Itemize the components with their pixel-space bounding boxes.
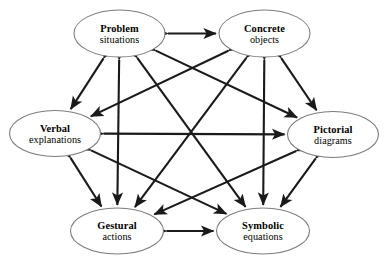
node-ellipse-symbolic[interactable] — [217, 208, 310, 254]
edge-verbal-pictorial — [104, 134, 285, 135]
diagram-canvas: ProblemsituationsConcreteobjectsVerbalex… — [0, 0, 387, 261]
node-ellipse-gestural[interactable] — [71, 208, 164, 254]
nodes-layer — [10, 10, 379, 254]
edge-verbal-symbolic — [91, 150, 226, 214]
node-ellipse-concrete[interactable] — [219, 10, 310, 57]
diagram-svg — [0, 0, 387, 261]
edge-pictorial-symbolic — [280, 159, 315, 207]
edges-layer — [71, 34, 317, 232]
edge-verbal-gestural — [71, 158, 102, 207]
edge-concrete-symbolic — [263, 60, 264, 205]
node-ellipse-pictorial[interactable] — [288, 112, 379, 158]
edge-concrete-pictorial — [281, 58, 316, 110]
node-ellipse-problem[interactable] — [74, 10, 165, 57]
edge-pictorial-gestural — [154, 151, 296, 214]
edge-problem-verbal — [71, 58, 104, 109]
node-ellipse-verbal[interactable] — [10, 111, 101, 157]
edge-concrete-verbal — [91, 51, 229, 117]
edge-problem-gestural — [117, 60, 119, 205]
